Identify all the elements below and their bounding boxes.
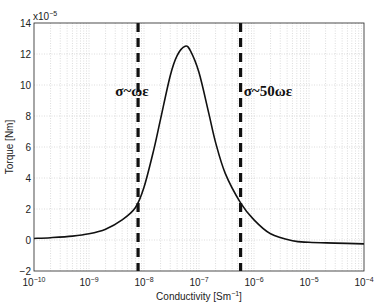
y-tick-label: 0 [25, 235, 31, 246]
x-tick-label: 10−5 [299, 276, 318, 288]
y-axis-ticks: −202468101214 [20, 18, 32, 277]
annotation-label: σ~50ωε [244, 83, 293, 99]
y-tick-label: 14 [20, 18, 32, 29]
y-multiplier: x10−5 [33, 10, 57, 22]
annotation-label: σ~ωε [115, 83, 149, 99]
y-axis-label: Torque [Nm] [4, 120, 15, 175]
x-tick-label: 10−9 [79, 276, 98, 288]
y-tick-label: 4 [25, 173, 31, 184]
x-axis-label: Conductivity [Sm−1] [156, 290, 242, 302]
torque-vs-conductivity-chart: −202468101214 10−1010−910−810−710−610−51… [0, 0, 381, 307]
y-tick-label: 8 [25, 111, 31, 122]
grid [34, 23, 364, 271]
y-tick-label: 12 [20, 49, 32, 60]
x-tick-label: 10−10 [23, 276, 46, 288]
y-tick-label: 6 [25, 142, 31, 153]
x-axis-ticks: 10−1010−910−810−710−610−510−4 [23, 276, 374, 288]
x-tick-label: 10−6 [244, 276, 263, 288]
x-tick-label: 10−8 [134, 276, 153, 288]
y-tick-label: −2 [20, 266, 32, 277]
y-tick-label: 2 [25, 204, 31, 215]
x-tick-label: 10−4 [354, 276, 373, 288]
y-tick-label: 10 [20, 80, 32, 91]
x-tick-label: 10−7 [189, 276, 208, 288]
